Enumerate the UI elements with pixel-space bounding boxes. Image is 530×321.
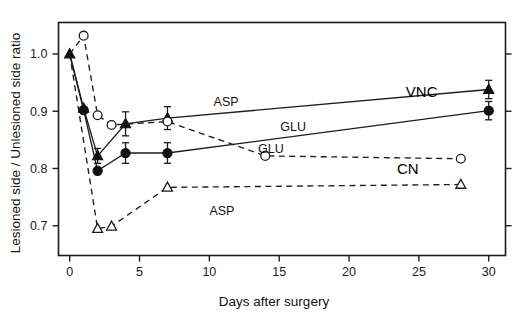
series-vnc-glu — [70, 54, 494, 175]
data-point-cn-glu-day3 — [107, 121, 116, 130]
x-tick-label-15: 15 — [272, 265, 286, 279]
data-point-vnc-glu-day1 — [79, 105, 88, 114]
x-tick-label-5: 5 — [136, 265, 143, 279]
annotation-group-vnc: VNC — [406, 83, 438, 100]
annotation-vnc-glu: GLU — [280, 120, 306, 134]
data-point-cn-glu-day2 — [93, 111, 102, 120]
annotation-cn-asp: ASP — [209, 204, 234, 218]
y-tick-label-1.0: 1.0 — [30, 47, 47, 61]
y-tick-label-0.8: 0.8 — [30, 162, 47, 176]
data-point-vnc-glu-day30 — [484, 106, 493, 115]
data-point-cn-asp-day28 — [456, 179, 466, 188]
data-point-vnc-glu-day4 — [121, 148, 130, 157]
data-point-cn-glu-day7 — [163, 117, 172, 126]
data-point-cn-glu-day28 — [456, 154, 465, 163]
data-point-cn-asp-day7 — [163, 182, 173, 191]
x-tick-label-10: 10 — [202, 265, 216, 279]
data-point-vnc-glu-day7 — [163, 148, 172, 157]
annotation-cn-glu: GLU — [258, 142, 284, 156]
x-tick-label-0: 0 — [66, 265, 73, 279]
y-axis-title: Lesioned side / Unlesioned side ratio — [8, 33, 23, 254]
plot-frame — [59, 23, 506, 256]
y-tick-label-0.7: 0.7 — [30, 219, 47, 233]
line-chart: 0510152025300.70.80.91.0Days after surge… — [0, 0, 530, 321]
data-point-cn-asp-day3 — [107, 221, 117, 230]
x-tick-label-25: 25 — [412, 265, 426, 279]
data-point-vnc-glu-day2 — [93, 166, 102, 175]
y-tick-label-0.9: 0.9 — [30, 105, 47, 119]
x-axis-title: Days after surgery — [219, 294, 330, 309]
x-tick-label-30: 30 — [482, 265, 496, 279]
x-tick-label-20: 20 — [342, 265, 356, 279]
annotation-group-cn: CN — [397, 160, 419, 177]
figure-container: 0510152025300.70.80.91.0Days after surge… — [0, 0, 530, 321]
series-line-vnc-asp — [70, 54, 489, 156]
annotation-vnc-asp: ASP — [214, 95, 239, 109]
data-point-cn-glu-day1 — [79, 31, 88, 40]
data-point-vnc-asp-day30 — [484, 84, 494, 93]
